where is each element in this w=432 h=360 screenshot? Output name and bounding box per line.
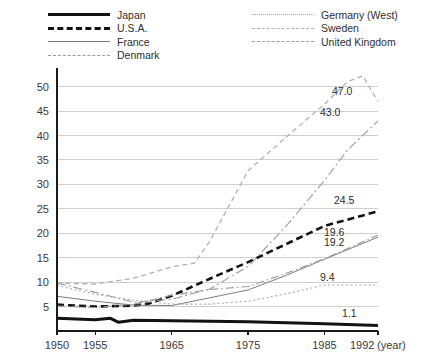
y-axis-tick-label: 40	[37, 130, 49, 142]
data-end-label: 24.5	[334, 194, 355, 206]
data-labels: 47.043.024.519.619.29.41.1	[320, 85, 357, 318]
legend-line-sample-icon	[252, 9, 314, 21]
legend-line-sample-icon	[252, 22, 314, 34]
legend-line-sample-icon	[252, 36, 314, 48]
legend-line-sample-icon	[48, 36, 110, 48]
y-axis-tick-label: 30	[37, 178, 49, 190]
y-axis-tick-label: 50	[37, 81, 49, 93]
series-line-germany-west	[57, 285, 378, 304]
x-axis-tick-label: 1992	[350, 339, 374, 351]
chart-legend: JapanU.S.A.FranceDenmark Germany (West)S…	[0, 0, 432, 62]
y-axis-tick-label: 45	[37, 105, 49, 117]
data-end-label: 43.0	[320, 106, 341, 118]
series-line-japan	[57, 318, 378, 325]
line-chart-svg: 5101520253035404550 19501955196519751985…	[0, 56, 432, 360]
legend-column-right: Germany (West)SwedenUnited Kingdom	[252, 8, 398, 49]
legend-item-japan: Japan	[48, 8, 160, 22]
legend-item-label: United Kingdom	[321, 36, 396, 48]
legend-item-france: France	[48, 35, 160, 49]
x-axis-unit-label: (year)	[377, 339, 406, 351]
legend-item-label: France	[117, 36, 150, 48]
data-end-label: 1.1	[342, 307, 357, 319]
x-axis-tick-label: 1965	[159, 339, 183, 351]
y-axis-tick-label: 35	[37, 154, 49, 166]
y-axis-tick-label: 10	[37, 276, 49, 288]
y-axis-tick-label: 15	[37, 252, 49, 264]
legend-item-label: Japan	[117, 9, 146, 21]
legend-item-label: Germany (West)	[321, 9, 398, 21]
legend-column-left: JapanU.S.A.FranceDenmark	[48, 8, 160, 62]
y-axis-ticks: 5101520253035404550	[37, 81, 49, 313]
legend-item-label: Sweden	[321, 22, 359, 34]
legend-line-sample-icon	[48, 9, 110, 21]
legend-line-sample-icon	[48, 22, 110, 34]
legend-item-sweden: Sweden	[252, 22, 398, 36]
x-axis-tick-label: 1955	[83, 339, 107, 351]
x-axis-tick-label: 1985	[312, 339, 336, 351]
y-axis-tick-label: 25	[37, 203, 49, 215]
y-axis-tick-label: 20	[37, 227, 49, 239]
plot-area: 5101520253035404550 19501955196519751985…	[0, 56, 432, 360]
legend-item-germany-west: Germany (West)	[252, 8, 398, 22]
x-axis-ticks: 195019551965197519851992 (year)	[45, 331, 406, 351]
legend-item-u-s-a: U.S.A.	[48, 22, 160, 36]
y-axis-tick-label: 5	[43, 301, 49, 313]
chart-screenshot: JapanU.S.A.FranceDenmark Germany (West)S…	[0, 0, 432, 360]
x-axis-tick-label: 1950	[45, 339, 69, 351]
data-end-label: 9.4	[320, 271, 335, 283]
legend-item-label: U.S.A.	[117, 22, 147, 34]
data-end-label: 19.2	[324, 236, 345, 248]
x-axis-tick-label: 1975	[236, 339, 260, 351]
data-end-label: 47.0	[332, 85, 353, 97]
legend-item-united-kingdom: United Kingdom	[252, 35, 398, 49]
